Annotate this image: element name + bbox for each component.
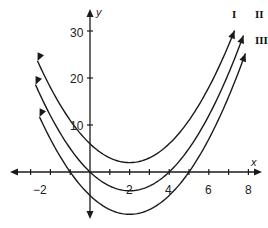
curve-iii-arrow-right-icon xyxy=(239,53,246,62)
y-axis-arrow-down-icon xyxy=(87,211,94,219)
curve-iii-arrow-left-icon xyxy=(40,108,47,117)
x-tick-label: 6 xyxy=(205,184,212,196)
curve-i-arrow-left-icon xyxy=(38,52,44,61)
curve-label-ii: II xyxy=(255,8,264,20)
curve-i-arrow-right-icon xyxy=(228,31,235,40)
curve-label-i: I xyxy=(232,8,236,20)
y-tick-label: 30 xyxy=(70,27,83,39)
x-axis-arrow-left-icon xyxy=(10,169,18,176)
x-tick-label: 8 xyxy=(245,184,252,196)
y-axis-arrow-up-icon xyxy=(87,9,94,17)
y-tick-label: 10 xyxy=(70,120,83,132)
x-tick-label: 2 xyxy=(126,184,133,196)
y-axis-label: y xyxy=(96,6,102,18)
curve-ii-arrow-right-icon xyxy=(237,35,244,44)
x-tick-label: −2 xyxy=(33,184,47,196)
x-tick-label: 4 xyxy=(165,184,172,196)
parabola-chart: y x −2 2 4 6 8 30 20 10 I II III xyxy=(0,0,268,228)
x-axis-label: x xyxy=(251,156,257,168)
x-axis-arrow-right-icon xyxy=(254,169,262,176)
curve-label-iii: III xyxy=(255,34,268,46)
y-tick-label: 20 xyxy=(70,73,83,85)
curve-ii-arrow-left-icon xyxy=(36,76,42,85)
